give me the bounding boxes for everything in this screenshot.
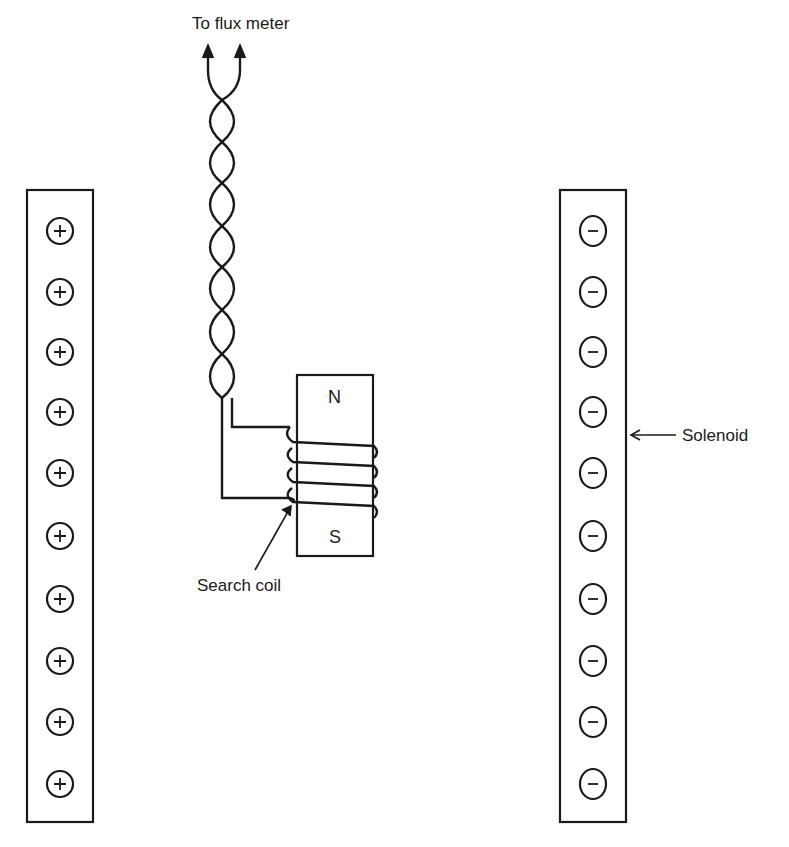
solenoid-label: Solenoid <box>682 426 748 446</box>
current-in-symbols <box>580 216 606 799</box>
current-out-symbols <box>47 218 73 797</box>
north-pole-label: N <box>328 387 341 408</box>
search-coil-pointer-arrow <box>255 506 291 570</box>
twisted-pair-leads <box>203 46 290 498</box>
south-pole-label: S <box>329 527 341 548</box>
diagram-canvas <box>0 0 789 847</box>
solenoid-right-wall <box>560 190 626 822</box>
search-coil-label: Search coil <box>197 576 281 596</box>
flux-meter-label: To flux meter <box>192 14 289 34</box>
search-coil <box>287 427 377 518</box>
solenoid-pointer-arrow <box>631 430 676 440</box>
